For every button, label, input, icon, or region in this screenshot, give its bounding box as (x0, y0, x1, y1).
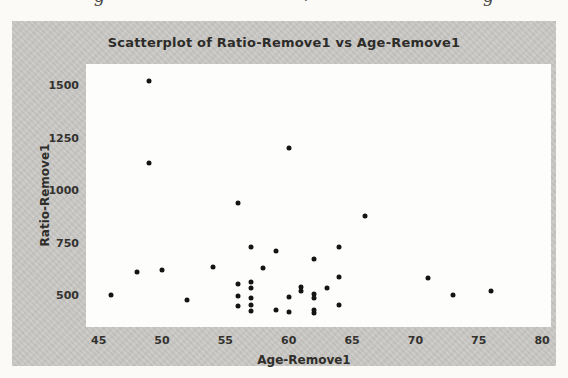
data-point (248, 280, 253, 285)
data-point (337, 245, 342, 250)
y-tick-label: 750 (56, 236, 79, 249)
data-point (236, 200, 241, 205)
data-point (236, 303, 241, 308)
data-point (489, 288, 494, 293)
x-tick-label: 45 (91, 334, 106, 347)
scanned-page: g ’ g Scatterplot of Ratio-Remove1 vs Ag… (0, 0, 568, 378)
data-point (248, 244, 253, 249)
data-point (236, 281, 241, 286)
data-point (312, 296, 317, 301)
data-point (274, 307, 279, 312)
data-point (147, 160, 152, 165)
data-point (210, 264, 215, 269)
data-point (248, 308, 253, 313)
data-point (109, 293, 114, 298)
chart-title: Scatterplot of Ratio-Remove1 vs Age-Remo… (12, 35, 556, 50)
data-point (286, 146, 291, 151)
y-tick-label: 1500 (48, 79, 79, 92)
data-point (185, 298, 190, 303)
y-tick-label: 1250 (48, 131, 79, 144)
cropped-glyph: g (94, 0, 105, 6)
data-point (286, 309, 291, 314)
y-axis-label: Ratio-Remove1 (38, 144, 52, 247)
data-point (426, 276, 431, 281)
data-point (286, 295, 291, 300)
scatterplot-figure: Scatterplot of Ratio-Remove1 vs Age-Remo… (12, 21, 556, 366)
data-point (134, 269, 139, 274)
cropped-glyph: g (483, 0, 494, 6)
data-point (261, 265, 266, 270)
data-point (274, 248, 279, 253)
x-tick-label: 60 (281, 334, 296, 347)
x-tick-label: 50 (154, 334, 169, 347)
data-point (312, 257, 317, 262)
y-tick-label: 1000 (48, 184, 79, 197)
data-point (324, 286, 329, 291)
x-tick-label: 75 (471, 334, 486, 347)
x-tick-label: 80 (534, 334, 549, 347)
data-point (147, 78, 152, 83)
cropped-text-artifact: g ’ g (0, 0, 568, 15)
data-point (236, 294, 241, 299)
data-point (451, 293, 456, 298)
y-tick-label: 500 (56, 289, 79, 302)
x-tick-label: 70 (408, 334, 423, 347)
data-point (337, 275, 342, 280)
data-point (248, 303, 253, 308)
x-tick-label: 65 (344, 334, 359, 347)
cropped-glyph: ’ (304, 0, 309, 13)
data-point (248, 295, 253, 300)
data-point (299, 289, 304, 294)
plot-area (86, 64, 551, 327)
x-tick-label: 55 (218, 334, 233, 347)
data-point (337, 302, 342, 307)
data-point (362, 214, 367, 219)
data-point (312, 310, 317, 315)
data-point (160, 267, 165, 272)
x-axis-label: Age-Remove1 (257, 353, 350, 367)
data-point (248, 285, 253, 290)
